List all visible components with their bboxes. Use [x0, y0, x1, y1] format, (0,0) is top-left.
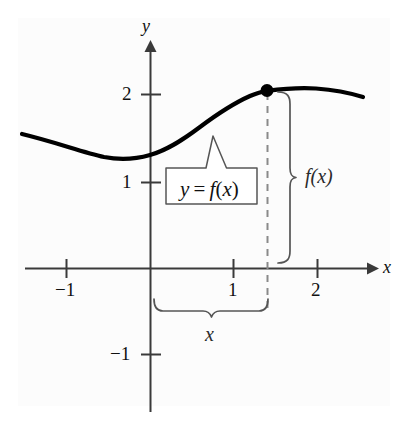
callout-var: x — [222, 177, 231, 201]
function-curve-group — [22, 88, 363, 159]
callout-paren-close: ) — [232, 177, 239, 201]
y-tick-label-2: 2 — [122, 84, 132, 103]
vertical-brace — [278, 92, 296, 263]
x-axis-label: x — [383, 258, 391, 276]
vertical-brace-label: f(x) — [305, 166, 333, 186]
x-axis-arrowhead — [367, 263, 379, 275]
plot-canvas — [0, 0, 407, 422]
callout-y: y — [180, 177, 189, 201]
y-tick-label-1: 1 — [122, 172, 132, 191]
x-tick-label--1: −1 — [55, 280, 75, 299]
function-curve — [22, 88, 363, 159]
callout-label: y = f(x) — [180, 179, 239, 200]
axes-group — [25, 40, 379, 412]
y-axis-label: y — [142, 17, 150, 35]
y-axis-arrowhead — [145, 40, 157, 52]
horizontal-brace-label: x — [205, 324, 214, 344]
marked-point-dot — [261, 84, 274, 97]
x-tick-label-1: 1 — [228, 280, 238, 299]
callout-equals: = — [194, 177, 206, 201]
y-tick-label--1: −1 — [110, 344, 130, 363]
function-graph-figure: y x 2 1 −1 −1 1 2 y = f(x) f(x) x — [0, 0, 407, 422]
horizontal-brace — [154, 299, 268, 317]
x-tick-label-2: 2 — [311, 280, 321, 299]
